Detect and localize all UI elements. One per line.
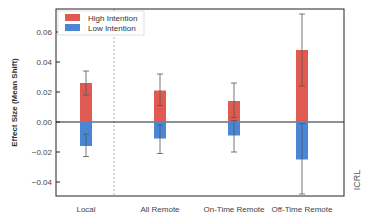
legend-swatch-high <box>65 14 80 21</box>
y-tick-label: 0.06 <box>36 28 52 37</box>
y-tick-label: 0.00 <box>36 118 52 127</box>
x-category-label: On-Time Remote <box>203 205 265 214</box>
legend-label: Low Intention <box>88 24 136 33</box>
y-tick-label: 0.02 <box>36 88 52 97</box>
y-tick-label: 0.04 <box>36 58 52 67</box>
x-category-label: Local <box>76 205 95 214</box>
legend-swatch-low <box>65 24 80 31</box>
y-axis-label: Effect Size (Mean Shift) <box>10 58 19 147</box>
x-category-label: Off-Time Remote <box>272 205 333 214</box>
x-category-label: All Remote <box>140 205 180 214</box>
y-tick-label: −0.02 <box>32 148 53 157</box>
y-tick-label: −0.04 <box>32 178 53 187</box>
watermark-text: ICRL <box>352 170 362 191</box>
effect-size-chart: 0.060.040.020.00−0.02−0.04Effect Size (M… <box>0 0 377 223</box>
legend-label: High Intention <box>88 14 137 23</box>
